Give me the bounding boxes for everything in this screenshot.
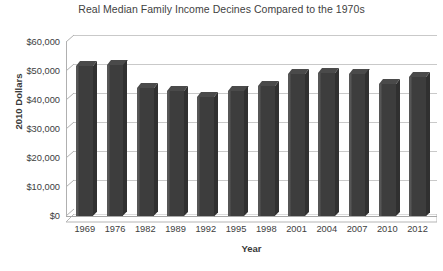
x-axis-tick-label: 2001 xyxy=(286,224,307,234)
bar xyxy=(349,74,366,216)
bar-side-face xyxy=(93,61,98,217)
bar-side-face xyxy=(365,69,370,217)
bar-side-face xyxy=(305,69,310,217)
bar-side-face xyxy=(154,83,159,217)
x-axis-tick-label: 1982 xyxy=(135,224,156,234)
bar-front-face xyxy=(76,66,93,216)
bar xyxy=(167,91,184,216)
bar-side-face xyxy=(275,81,280,217)
bar-front-face xyxy=(349,74,366,216)
bar-side-face xyxy=(214,92,219,217)
x-axis-tick-label: 1969 xyxy=(74,224,95,234)
x-axis-tick-label: 1992 xyxy=(195,224,216,234)
x-axis-title: Year xyxy=(60,243,443,254)
bar-front-face xyxy=(379,84,396,216)
bar-front-face xyxy=(197,97,214,216)
x-axis-tick-label: 1995 xyxy=(226,224,247,234)
x-axis-tick-label: 1998 xyxy=(256,224,277,234)
bar-front-face xyxy=(318,73,335,216)
x-axis-tick-label: 2010 xyxy=(377,224,398,234)
bar xyxy=(228,91,245,216)
bar-front-face xyxy=(228,91,245,216)
bar-side-face xyxy=(426,72,431,217)
bar-side-face xyxy=(396,79,401,217)
bar-side-face xyxy=(335,68,340,217)
bar xyxy=(197,97,214,216)
bar-side-face xyxy=(184,86,189,217)
x-axis-tick-label: 1989 xyxy=(165,224,186,234)
bar-side-face xyxy=(123,60,128,217)
x-axis-tick-label: 1976 xyxy=(105,224,126,234)
bar-side-face xyxy=(244,86,249,217)
bar-front-face xyxy=(409,77,426,216)
x-axis-tick-label: 2012 xyxy=(407,224,428,234)
bar xyxy=(379,84,396,216)
bar-front-face xyxy=(137,88,154,216)
bar xyxy=(107,65,124,216)
bar-front-face xyxy=(167,91,184,216)
bar-front-face xyxy=(107,65,124,216)
bar xyxy=(258,86,275,216)
bar xyxy=(409,77,426,216)
chart-container: Real Median Family Income Decines Compar… xyxy=(0,0,443,271)
bar xyxy=(288,74,305,216)
bar xyxy=(137,88,154,216)
x-axis-tick-labels: 1969197619821989199219951998200120042007… xyxy=(0,224,443,238)
x-axis-tick-label: 2007 xyxy=(347,224,368,234)
bar xyxy=(318,73,335,216)
x-axis-tick-label: 2004 xyxy=(316,224,337,234)
bar xyxy=(76,66,93,216)
bottom-edge-artifact xyxy=(0,262,443,271)
bar-front-face xyxy=(258,86,275,216)
bar-front-face xyxy=(288,74,305,216)
